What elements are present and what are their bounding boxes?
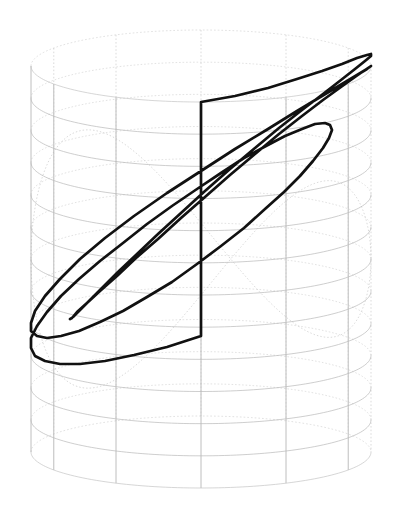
figure-container: Closed space curve on a cylinder Wirefra… <box>0 0 399 514</box>
cylinder-space-curve-plot: Closed space curve on a cylinder Wirefra… <box>0 0 399 514</box>
space-curve-path <box>31 54 371 364</box>
